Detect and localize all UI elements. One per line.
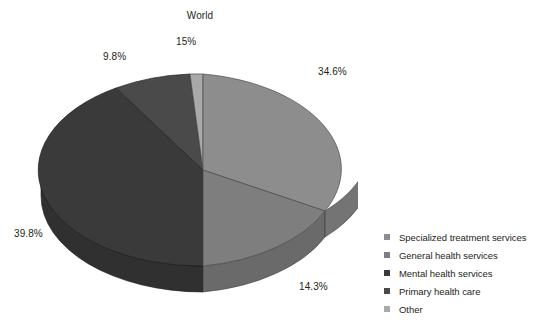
pie-chart: World 15% 34.6% 14.3% 39. <box>0 0 560 329</box>
legend-item-other[interactable]: Other <box>384 300 556 318</box>
slice-label-mental-health-services: 39.8% <box>14 228 43 239</box>
legend-item-primary-health-care[interactable]: Primary health care <box>384 282 556 300</box>
legend-item-label: Other <box>399 304 423 315</box>
slice-label-other: 15% <box>176 36 196 47</box>
legend-item-specialized-treatment-services[interactable]: Specialized treatment services <box>384 228 556 246</box>
chart-legend: Specialized treatment services General h… <box>384 228 556 318</box>
legend-item-label: Mental health services <box>399 268 492 279</box>
legend-item-mental-health-services[interactable]: Mental health services <box>384 264 556 282</box>
legend-item-general-health-services[interactable]: General health services <box>384 246 556 264</box>
slice-label-primary-health-care: 9.8% <box>103 51 126 62</box>
legend-swatch-icon <box>384 306 390 312</box>
legend-swatch-icon <box>384 252 390 258</box>
legend-swatch-icon <box>384 234 390 240</box>
slice-label-specialized-treatment-services: 34.6% <box>318 66 347 77</box>
slice-label-general-health-services: 14.3% <box>299 281 328 292</box>
legend-item-label: Primary health care <box>399 286 480 297</box>
legend-item-label: General health services <box>399 250 498 261</box>
legend-item-label: Specialized treatment services <box>399 232 526 243</box>
pie-top-face <box>38 74 341 266</box>
legend-swatch-icon <box>384 288 390 294</box>
legend-swatch-icon <box>384 270 390 276</box>
